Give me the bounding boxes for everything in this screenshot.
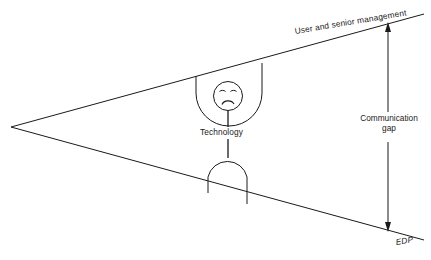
communication-gap-label-line2: gap: [355, 124, 423, 134]
bottom-edge-line: [11, 127, 424, 240]
sad-face-icon: [214, 82, 243, 111]
diagram-canvas: User and senior management EDP Communica…: [0, 0, 431, 260]
technology-label: Technology: [200, 128, 243, 138]
communication-gap-label: Communication gap: [355, 114, 423, 133]
top-edge-line: [11, 14, 424, 127]
